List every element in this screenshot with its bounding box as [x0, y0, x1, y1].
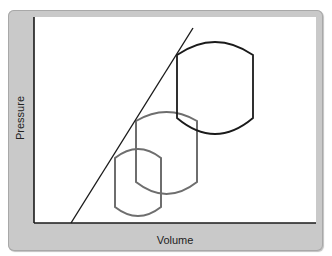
diagram-canvas — [0, 0, 332, 256]
large-barrel-shape — [177, 42, 253, 134]
medium-barrel-shape — [136, 112, 197, 194]
y-axis-label: Pressure — [14, 96, 26, 140]
x-axis-label: Volume — [157, 234, 194, 246]
